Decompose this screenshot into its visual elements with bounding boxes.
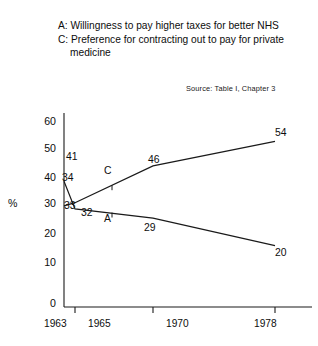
series-line-a bbox=[64, 181, 275, 246]
chart-figure: A: Willingness to pay higher taxes for b… bbox=[0, 0, 318, 346]
plot-area bbox=[0, 0, 318, 346]
series-line-c bbox=[64, 141, 275, 205]
